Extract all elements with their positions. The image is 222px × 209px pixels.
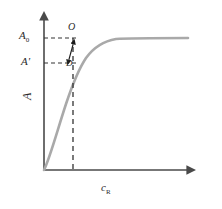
point-o-label: O — [68, 22, 75, 32]
plot-canvas — [0, 0, 222, 209]
chart-figure: A0 A' O D A cR — [0, 0, 222, 209]
a0-label-base: A — [19, 29, 26, 41]
x-axis-title: cR — [101, 182, 111, 196]
aprime-axis-label: A' — [21, 56, 30, 67]
point-d-label: D — [66, 59, 73, 68]
x-axis-title-sub: R — [106, 188, 111, 196]
a0-axis-label: A0 — [19, 30, 29, 44]
y-axis-title: A — [21, 93, 33, 100]
a0-label-sub: 0 — [26, 36, 30, 44]
